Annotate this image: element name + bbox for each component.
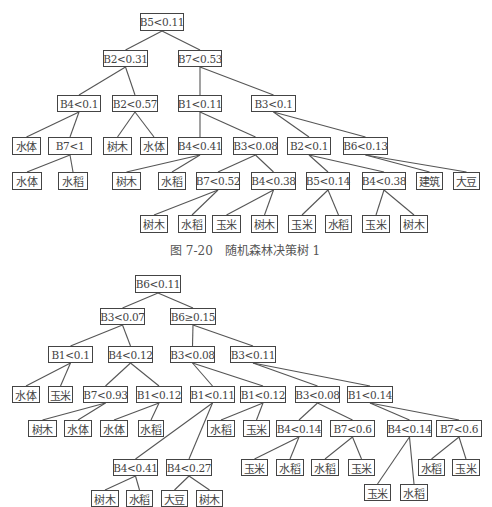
leaf-node: 水稻 <box>400 484 428 501</box>
leaf-node: 水体 <box>12 137 41 155</box>
tree-edge <box>154 190 218 215</box>
leaf-node: 树木 <box>91 490 119 507</box>
leaf-node: 玉米 <box>212 215 241 233</box>
tree-edge <box>162 31 200 50</box>
leaf-node: 玉米 <box>364 484 391 501</box>
leaf-node: 水体 <box>140 137 168 155</box>
split-node: B3<0.11 <box>230 346 276 363</box>
tree-edge <box>123 293 159 308</box>
split-node: B3<0.08 <box>295 386 340 403</box>
leaf-node: 水稻 <box>178 215 206 233</box>
tree-edge <box>43 403 106 420</box>
tree-edge <box>274 112 310 137</box>
tree-edge <box>26 363 71 386</box>
leaf-node: 玉米 <box>362 215 390 233</box>
split-node: B1<0.11 <box>178 95 222 112</box>
leaf-node: 水稻 <box>138 420 164 437</box>
tree-edge <box>127 155 201 172</box>
leaf-node: 水体 <box>100 420 128 437</box>
tree-edge <box>384 190 414 215</box>
split-node: B4<0.14 <box>387 420 432 437</box>
tree-edge <box>253 363 318 386</box>
split-node: B6<0.13 <box>343 137 388 155</box>
tree-edge <box>126 31 163 50</box>
leaf-node: 树木 <box>112 172 141 190</box>
split-node: B5<0.11 <box>140 13 184 31</box>
tree-edge <box>200 112 256 137</box>
tree-edge <box>318 403 353 420</box>
leaf-node: 水稻 <box>58 172 88 190</box>
tree-edge <box>71 325 123 346</box>
split-node: B4<0.41 <box>178 137 222 155</box>
tree-edge <box>192 190 218 215</box>
split-node: B7<0.53 <box>178 50 222 67</box>
leaf-node: 水体 <box>12 386 40 403</box>
tree-edge <box>172 155 200 172</box>
tree-edge <box>432 437 460 459</box>
leaf-node: 水稻 <box>311 459 339 476</box>
leaf-node: 玉米 <box>243 420 270 437</box>
leaf-node: 大豆 <box>161 490 188 507</box>
tree-edge <box>255 437 300 459</box>
tree-edge <box>378 437 410 484</box>
split-node: B4<0.12 <box>108 346 153 363</box>
split-node: B1<0.12 <box>240 386 286 403</box>
tree-edge <box>106 363 131 386</box>
tree-edge <box>221 403 263 420</box>
leaf-node: 树木 <box>400 215 428 233</box>
tree-edge <box>218 155 256 172</box>
tree-edge <box>274 112 366 137</box>
tree-edge <box>70 155 73 172</box>
tree-edge <box>189 476 210 490</box>
tree-edge <box>253 363 370 386</box>
tree-edge <box>309 155 384 172</box>
tree-edge <box>126 67 136 95</box>
leaf-node: 水稻 <box>418 459 445 476</box>
split-node: B3<0.07 <box>100 308 145 325</box>
tree-edge <box>193 325 253 346</box>
split-node: B2<0.1 <box>287 137 331 155</box>
leaf-node: 树木 <box>28 420 57 437</box>
split-node: B1<0.1 <box>48 346 93 363</box>
split-node: B2<0.57 <box>112 95 158 112</box>
split-node: B7<0.6 <box>436 420 482 437</box>
tree-edge <box>302 190 328 215</box>
tree-edge <box>118 112 136 137</box>
figure-caption-tree-1: 图 7-20 随机森林决策树 1 <box>170 241 320 258</box>
split-node: B5<0.14 <box>306 172 350 190</box>
split-node: B4<0.41 <box>113 459 158 476</box>
split-node: B1<0.12 <box>136 386 182 403</box>
split-node: B4<0.1 <box>57 95 101 112</box>
tree-edge <box>78 403 106 420</box>
leaf-node: 树木 <box>196 490 223 507</box>
leaf-node: 水稻 <box>276 459 304 476</box>
split-node: B3<0.08 <box>170 346 215 363</box>
split-node: B4<0.38 <box>251 172 296 190</box>
leaf-node: 树木 <box>140 215 168 233</box>
split-node: B2<0.31 <box>103 50 148 67</box>
tree-edge <box>200 67 274 95</box>
leaf-node: 树木 <box>103 137 132 155</box>
leaf-node: 水稻 <box>325 215 352 233</box>
leaf-node: 大豆 <box>453 172 480 190</box>
leaf-node: 水体 <box>64 420 92 437</box>
tree-edge <box>353 437 362 459</box>
tree-edge <box>135 112 154 137</box>
leaf-node: 水体 <box>12 172 42 190</box>
tree-edge <box>123 325 131 346</box>
leaf-node: 水稻 <box>126 490 153 507</box>
tree-edge <box>193 325 194 346</box>
leaf-node: 玉米 <box>348 459 375 476</box>
split-node: B4<0.27 <box>166 459 212 476</box>
tree-edge <box>299 403 318 420</box>
tree-edge <box>376 190 384 215</box>
tree-edge <box>27 155 70 172</box>
split-node: B3<0.08 <box>233 137 278 155</box>
split-node: B7<0.52 <box>196 172 240 190</box>
split-node: B7<0.93 <box>83 386 128 403</box>
split-node: B7<1 <box>48 137 92 155</box>
tree-edge <box>370 403 410 420</box>
tree-edge <box>328 190 339 215</box>
tree-edge <box>131 363 160 386</box>
tree-edge <box>256 155 274 172</box>
